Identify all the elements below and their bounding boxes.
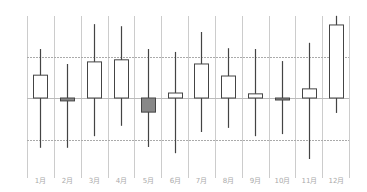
x-axis-labels: 1月2月3月4月5月6月7月8月9月10月11月12月 xyxy=(35,177,345,185)
candle-body-down xyxy=(61,98,75,101)
candle-1 xyxy=(34,49,48,148)
x-axis-label: 8月 xyxy=(223,177,234,185)
candle-8 xyxy=(222,48,236,128)
x-axis-label: 6月 xyxy=(170,177,181,185)
candle-7 xyxy=(195,32,209,132)
candle-body-up xyxy=(249,94,263,98)
x-axis-label: 11月 xyxy=(302,177,318,185)
candle-body-up xyxy=(330,25,344,98)
candle-5 xyxy=(142,49,156,147)
x-axis-label: 10月 xyxy=(275,177,291,185)
candle-10 xyxy=(276,61,290,134)
candle-body-up xyxy=(88,62,102,98)
vertical-gridlines xyxy=(28,16,350,178)
candle-9 xyxy=(249,49,263,136)
candle-6 xyxy=(169,52,183,153)
candle-4 xyxy=(115,26,129,126)
candle-body-up xyxy=(303,89,317,98)
candle-body-up xyxy=(222,76,236,98)
candle-body-up xyxy=(195,64,209,98)
x-axis-label: 2月 xyxy=(62,177,73,185)
candle-11 xyxy=(303,43,317,159)
x-axis-label: 7月 xyxy=(196,177,207,185)
candle-3 xyxy=(88,24,102,136)
candle-12 xyxy=(330,16,344,113)
candle-2 xyxy=(61,64,75,148)
candlestick-chart: 1月2月3月4月5月6月7月8月9月10月11月12月 xyxy=(0,0,367,192)
x-axis-label: 4月 xyxy=(116,177,127,185)
candle-body-up xyxy=(115,60,129,98)
candle-body-down xyxy=(142,98,156,112)
x-axis-label: 9月 xyxy=(250,177,261,185)
candle-body-up xyxy=(34,75,48,98)
candle-body-down xyxy=(276,98,290,100)
candle-body-up xyxy=(169,93,183,98)
x-axis-label: 5月 xyxy=(143,177,154,185)
x-axis-label: 3月 xyxy=(89,177,100,185)
x-axis-label: 12月 xyxy=(329,177,345,185)
x-axis-label: 1月 xyxy=(35,177,46,185)
